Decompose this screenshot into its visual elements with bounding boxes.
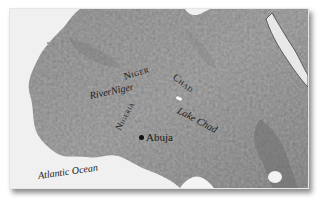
label-abuja-city: Abuja — [146, 132, 173, 143]
abuja-city-dot — [139, 135, 144, 140]
east-lake — [268, 171, 282, 183]
relief-map — [10, 9, 308, 188]
map-frame: Niger RiverNiger Chad Lake Chad Nigeria … — [9, 8, 309, 189]
island — [47, 42, 49, 44]
island — [51, 43, 53, 45]
